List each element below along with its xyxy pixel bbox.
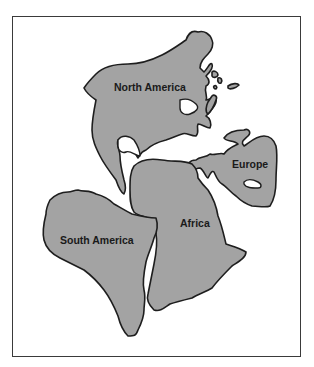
label-north-america: North America: [114, 81, 186, 93]
label-europe: Europe: [232, 158, 268, 170]
arctic-island: [212, 71, 218, 77]
greenland-fragment: [206, 95, 216, 114]
label-africa: Africa: [180, 217, 210, 229]
arctic-island: [228, 84, 239, 89]
label-south-america: South America: [60, 234, 134, 246]
continents-map: [0, 0, 314, 367]
arctic-island: [218, 78, 222, 83]
arctic-island: [214, 86, 217, 89]
